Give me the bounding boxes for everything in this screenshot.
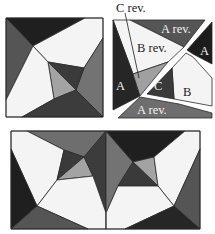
label-a-left: A [116,79,125,93]
label-c-rev: C rev. [116,1,146,15]
exploded-block: C rev. A rev. B rev. A A C B A rev. [113,1,212,118]
quilt-diagram: C rev. A rev. B rev. A A C B A rev. [0,0,215,234]
mirrored-block-pair [11,131,200,229]
label-a-rev-bottom: A rev. [137,103,167,117]
label-a-right: A [200,44,209,58]
label-b-rev: B rev. [137,41,167,55]
assembled-block [6,18,103,117]
label-c: C [154,79,162,93]
label-b: B [183,85,191,99]
label-a-rev-top: A rev. [161,22,191,36]
